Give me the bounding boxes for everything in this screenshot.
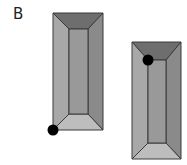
vertex-dot [143, 55, 154, 66]
inner-face [69, 29, 88, 114]
left-face [53, 13, 69, 130]
inner-face [148, 60, 166, 143]
right-face [88, 13, 103, 130]
vertex-dot [48, 125, 59, 136]
right-face [166, 42, 181, 159]
frustum-diagram [0, 0, 187, 165]
